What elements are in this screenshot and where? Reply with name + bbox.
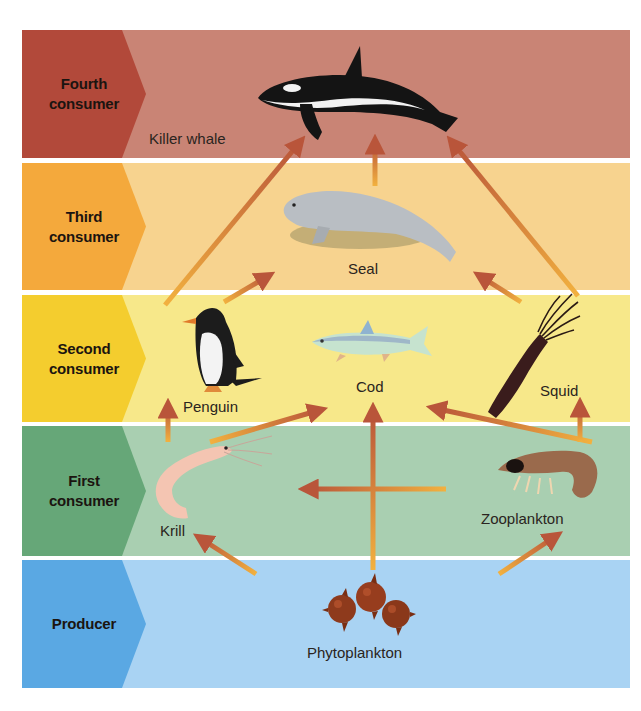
seal-illustration xyxy=(284,191,456,262)
krill-illustration xyxy=(156,436,272,519)
label-seal: Seal xyxy=(348,260,378,277)
penguin-illustration xyxy=(182,308,262,392)
label-krill: Krill xyxy=(160,522,185,539)
label-squid: Squid xyxy=(540,382,578,399)
label-penguin: Penguin xyxy=(183,398,238,415)
label-cod: Cod xyxy=(356,378,384,395)
zooplankton-illustration xyxy=(498,451,597,498)
arrow-penguin-to-seal xyxy=(224,276,268,302)
arrow-phytoplankton-to-zooplankton xyxy=(499,536,556,574)
arrow-squid-to-killer-whale xyxy=(452,142,578,296)
arrow-phytoplankton-to-krill xyxy=(200,538,256,574)
phytoplankton-illustration xyxy=(322,573,416,636)
arrow-zooplankton-to-cod xyxy=(434,408,592,442)
killer-whale-illustration xyxy=(258,46,458,140)
label-zooplankton: Zooplankton xyxy=(481,510,564,527)
arrow-squid-to-seal xyxy=(480,276,521,302)
food-web-diagram xyxy=(0,0,641,711)
label-killer-whale: Killer whale xyxy=(149,130,226,147)
squid-illustration xyxy=(488,294,580,418)
arrow-penguin-to-killer-whale xyxy=(165,142,300,305)
label-phytoplankton: Phytoplankton xyxy=(307,644,402,661)
cod-illustration xyxy=(312,320,432,362)
